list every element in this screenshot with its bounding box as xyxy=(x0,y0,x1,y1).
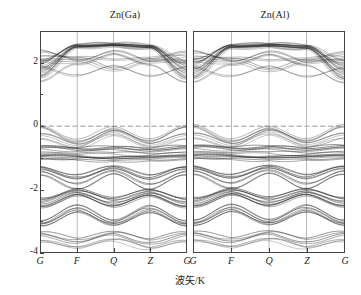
x-axis-tick-mark xyxy=(269,248,270,253)
band-plot-svg-right xyxy=(194,32,344,252)
x-axis-tick-mark xyxy=(77,248,78,253)
x-axis-tick-mark xyxy=(150,248,151,253)
y-axis-tick-label: 0 xyxy=(16,120,38,130)
x-axis-tick-label: G xyxy=(338,255,352,266)
y-axis-tick-label: -2 xyxy=(16,184,38,194)
panel-title-left: Zn(Ga) xyxy=(75,9,175,20)
y-axis-tick-mark xyxy=(40,63,44,64)
x-axis-tick-label: Q xyxy=(262,255,276,266)
x-axis-tick-label: G xyxy=(33,255,47,266)
x-axis-tick-mark xyxy=(114,248,115,253)
x-axis-tick-label: G xyxy=(186,255,200,266)
x-axis-tick-label: Q xyxy=(107,255,121,266)
x-axis-tick-label: F xyxy=(224,255,238,266)
y-axis-tick-label: 2 xyxy=(16,57,38,67)
plot-panel-zn-al xyxy=(193,31,345,253)
y-axis-tick-mark xyxy=(40,126,44,127)
plot-panel-zn-ga xyxy=(40,31,187,253)
y-axis-tick-mark xyxy=(40,190,44,191)
y-axis-tick-mark xyxy=(40,253,44,254)
band-structure-figure: Zn(Ga) Zn(Al) 能量/eV 波矢/K 20-2-4 GFQZGGFQ… xyxy=(0,0,361,295)
y-axis-minor-tick-mark xyxy=(40,221,43,222)
y-axis-tick-group: 20-2-4 xyxy=(10,0,38,295)
y-axis-minor-tick-mark xyxy=(40,94,43,95)
x-axis-label: 波矢/K xyxy=(90,272,290,287)
x-axis-tick-label: F xyxy=(70,255,84,266)
band-plot-svg-left xyxy=(41,32,186,252)
x-axis-tick-mark xyxy=(307,248,308,253)
y-axis-minor-tick-mark xyxy=(40,158,43,159)
x-axis-tick-mark xyxy=(231,248,232,253)
x-axis-tick-label: Z xyxy=(300,255,314,266)
x-axis-tick-label: Z xyxy=(143,255,157,266)
panel-title-right: Zn(Al) xyxy=(225,9,325,20)
